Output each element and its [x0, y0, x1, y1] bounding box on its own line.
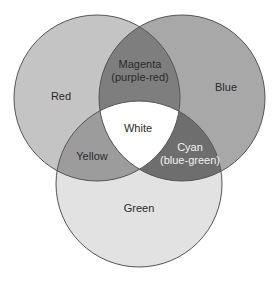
color-venn-diagram: Red Blue Green Magenta (purple-red) Whit…: [0, 0, 280, 284]
label-white: White: [124, 122, 152, 134]
label-magenta: Magenta: [119, 58, 163, 70]
label-cyan-desc: (blue-green): [160, 154, 220, 166]
label-yellow: Yellow: [76, 150, 107, 162]
label-magenta-desc: (purple-red): [111, 71, 168, 83]
label-green: Green: [124, 202, 155, 214]
label-cyan: Cyan: [177, 141, 203, 153]
label-red: Red: [51, 90, 71, 102]
label-blue: Blue: [215, 81, 237, 93]
